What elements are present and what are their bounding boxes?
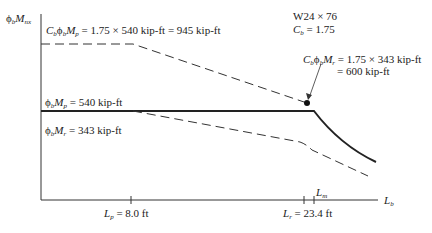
upper-plateau-label: CbϕbMp = 1.75 × 540 kip-ft = 945 kip-ft (46, 24, 221, 40)
cb-phi-mr-point (304, 100, 310, 106)
arrow-head (306, 93, 312, 100)
phi-mr-label: ϕbMr = 343 kip-ft (45, 124, 122, 140)
lm-label: Lm (316, 186, 327, 202)
y-axis-label: ϕbMnx (6, 12, 31, 28)
x-axis-label: Lb (384, 194, 394, 210)
lp-label: Lp = 8.0 ft (104, 207, 149, 223)
lr-label: Lr = 23.4 ft (283, 207, 332, 223)
phi-mp-label: ϕbMp = 540 kip-ft (45, 96, 122, 112)
cb-label: Cb = 1.75 (293, 23, 335, 39)
cb-phi-mr-value: = 600 kip-ft (337, 65, 390, 77)
moment-capacity-diagram: ϕbMnx CbϕbMp = 1.75 × 540 kip-ft = 945 k… (0, 0, 432, 233)
annotation-arrow (309, 64, 321, 98)
phi-mn-cb1-dashed-curve (133, 111, 368, 176)
section-label: W24 × 76 (293, 10, 337, 22)
cb-phi-mp-dashed-line (41, 44, 307, 103)
